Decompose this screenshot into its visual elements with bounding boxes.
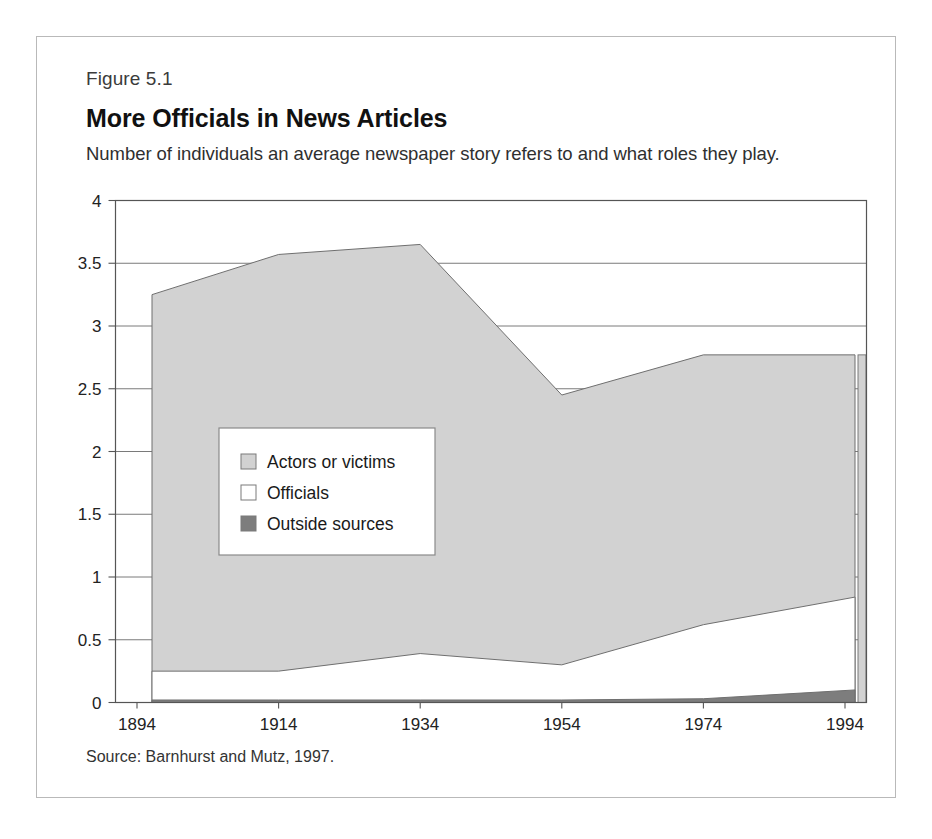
figure-page: Figure 5.1 More Officials in News Articl… bbox=[0, 0, 932, 839]
figure-number: Figure 5.1 bbox=[86, 68, 173, 90]
figure-source: Source: Barnhurst and Mutz, 1997. bbox=[86, 748, 334, 766]
figure-subtitle: Number of individuals an average newspap… bbox=[86, 143, 780, 165]
page-title: More Officials in News Articles bbox=[86, 104, 447, 133]
